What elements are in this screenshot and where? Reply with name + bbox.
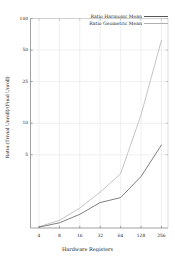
chart-legend: Ratio Harmonic Mean Ratio Geometric Mean — [64, 13, 168, 28]
plot-canvas — [0, 0, 175, 265]
legend-entry-geometric: Ratio Geometric Mean — [64, 20, 168, 27]
gridlines — [31, 19, 169, 229]
y-axis-title-wrap: Ratio:(Trivial Unroll)/(Final Unroll) — [1, 0, 15, 235]
x-tick-label: 16 — [77, 234, 83, 238]
x-tick-label: 4 — [38, 234, 41, 238]
legend-swatch-geometric — [144, 23, 168, 24]
y-axis-title: Ratio:(Trivial Unroll)/(Final Unroll) — [6, 77, 11, 159]
legend-label-geometric: Ratio Geometric Mean — [89, 20, 142, 27]
x-axis-title: Hardware Registers — [0, 247, 175, 252]
legend-swatch-harmonic — [144, 16, 168, 17]
x-tick-label: 128 — [137, 234, 145, 238]
chart-figure: 5102550100 48163264128256 Ratio:(Trivial… — [0, 0, 175, 265]
x-tick-label: 32 — [97, 234, 103, 238]
x-tick-label: 8 — [58, 234, 61, 238]
x-tick-label: 64 — [118, 234, 124, 238]
x-tick-label: 256 — [157, 234, 165, 238]
